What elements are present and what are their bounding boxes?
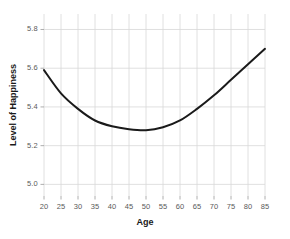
y-tick-label: 5.4 [16,102,38,111]
y-tick-label: 5.2 [16,141,38,150]
y-tick-label: 5.8 [16,24,38,33]
y-tick-label: 5.0 [16,179,38,188]
x-axis-title: Age [0,217,290,227]
y-tick-label: 5.6 [16,63,38,72]
happiness-vs-age-chart: 5.05.25.45.65.8 202530354045505560657075… [0,0,290,239]
happiness-curve [44,49,265,130]
y-axis-title: Level of Happiness [8,45,18,165]
x-tick-label: 85 [255,202,275,211]
vertical-gridlines [44,14,265,196]
